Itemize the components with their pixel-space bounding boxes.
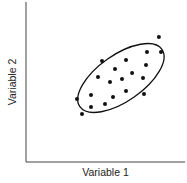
data-point: [111, 95, 115, 99]
data-point: [100, 59, 104, 63]
data-point: [89, 105, 93, 109]
x-axis-label: Variable 1: [26, 166, 185, 178]
data-point: [80, 112, 84, 116]
data-point: [157, 35, 161, 39]
data-point: [75, 97, 79, 101]
data-point: [144, 63, 148, 67]
y-axis-label: Variable 2: [6, 59, 18, 106]
data-point: [103, 102, 107, 106]
data-point: [124, 58, 128, 62]
data-point: [141, 76, 145, 80]
data-point: [89, 93, 93, 97]
data-points: [75, 35, 163, 116]
scatter-plot: [0, 0, 187, 183]
data-point: [145, 50, 149, 54]
data-point: [159, 50, 163, 54]
data-point: [113, 67, 117, 71]
data-point: [142, 92, 146, 96]
data-point: [120, 77, 124, 81]
data-point: [124, 89, 128, 93]
data-point: [130, 71, 134, 75]
data-point: [96, 75, 100, 79]
data-point: [108, 80, 112, 84]
